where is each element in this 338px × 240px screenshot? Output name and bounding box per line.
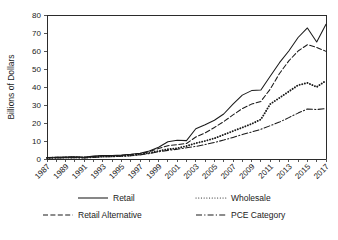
y-tick-label: 40 [32, 83, 41, 92]
x-tick-label: 2013 [275, 162, 294, 181]
legend-label-retail-alternative: Retail Alternative [78, 210, 142, 220]
x-tick-label: 1989 [52, 162, 71, 181]
chart-figure: Billions of Dollars 01020304050607080 19… [0, 0, 338, 240]
x-tick-label: 1997 [126, 162, 145, 181]
y-tick-label: 80 [32, 11, 41, 20]
x-tick-label: 2009 [238, 162, 257, 181]
x-tick-label: 1995 [107, 162, 126, 181]
x-tick-label: 2001 [163, 162, 182, 181]
x-tick-label: 2005 [200, 162, 219, 181]
x-tick-label: 2011 [257, 162, 276, 181]
x-tick-label: 1999 [145, 162, 164, 181]
line-chart: Billions of Dollars 01020304050607080 19… [0, 0, 338, 240]
y-tick-label: 60 [32, 47, 41, 56]
x-axis-ticks: 1987198919911993199519971999200120032005… [33, 159, 331, 181]
y-tick-label: 70 [32, 29, 41, 38]
legend-label-pce-category: PCE Category [231, 210, 286, 220]
x-tick-label: 2015 [293, 162, 312, 181]
chart-legend: RetailWholesaleRetail AlternativePCE Cat… [43, 193, 286, 220]
y-tick-label: 50 [32, 65, 41, 74]
legend-label-wholesale: Wholesale [231, 193, 271, 203]
x-tick-label: 1993 [89, 162, 108, 181]
x-tick-label: 2017 [312, 162, 331, 181]
x-tick-label: 1991 [70, 162, 89, 181]
series-lines [47, 24, 326, 158]
x-tick-label: 1987 [33, 162, 52, 181]
y-axis-label: Billions of Dollars [6, 54, 16, 119]
series-line-retail [47, 24, 326, 157]
series-line-pce-category [47, 109, 326, 159]
x-tick-label: 2003 [182, 162, 201, 181]
series-line-wholesale [47, 81, 326, 158]
y-axis-ticks: 01020304050607080 [32, 11, 47, 164]
y-tick-label: 0 [37, 155, 42, 164]
x-tick-label: 2007 [219, 162, 238, 181]
legend-label-retail: Retail [113, 193, 135, 203]
y-tick-label: 20 [32, 119, 41, 128]
y-tick-label: 30 [32, 101, 41, 110]
y-axis-label-text: Billions of Dollars [6, 54, 16, 119]
y-tick-label: 10 [32, 137, 41, 146]
